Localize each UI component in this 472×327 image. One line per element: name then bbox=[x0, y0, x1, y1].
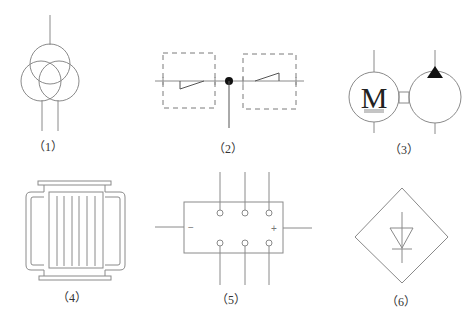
winding-circle-left bbox=[21, 61, 61, 101]
pump-circle bbox=[409, 71, 461, 123]
winding-circle-right bbox=[39, 61, 79, 101]
symbol-2-disconnector: （2） bbox=[155, 53, 304, 156]
symbol-5-rectifier-module: − + （5） bbox=[155, 172, 312, 307]
motor-letter: M bbox=[361, 81, 388, 114]
terminal-circle bbox=[266, 240, 272, 246]
switch-blade-right bbox=[255, 73, 279, 81]
shaft-coupling bbox=[399, 92, 409, 103]
symbol-4-label: （4） bbox=[57, 291, 87, 305]
inner-yoke-frame bbox=[31, 197, 120, 265]
symbol-2-label: （2） bbox=[213, 142, 243, 156]
symbol-6-label: （6） bbox=[386, 295, 416, 309]
symbol-1-label: （1） bbox=[33, 140, 63, 154]
terminal-circle bbox=[242, 210, 248, 216]
symbol-4-core-winding: （4） bbox=[26, 181, 125, 305]
switch-blade-left bbox=[180, 81, 204, 89]
symbol-3-motor-pump: M （3） bbox=[349, 50, 461, 157]
symbol-6-diode-unit: （6） bbox=[355, 188, 448, 309]
electrical-symbols-diagram: （1） （2） M （3） bbox=[0, 0, 472, 327]
top-clamp-bar bbox=[38, 181, 111, 185]
symbol-5-label: （5） bbox=[216, 293, 246, 307]
winding-circle-top bbox=[30, 44, 70, 84]
negative-sign: − bbox=[188, 222, 194, 233]
terminal-circle bbox=[217, 240, 223, 246]
terminal-circle bbox=[242, 240, 248, 246]
positive-sign: + bbox=[271, 223, 277, 234]
terminal-circle bbox=[217, 210, 223, 216]
terminal-circle bbox=[266, 210, 272, 216]
outer-yoke-frame bbox=[26, 185, 125, 276]
symbol-1-three-winding-transformer: （1） bbox=[21, 15, 79, 154]
bottom-clamp-bar bbox=[39, 276, 111, 280]
symbol-3-label: （3） bbox=[389, 143, 419, 157]
